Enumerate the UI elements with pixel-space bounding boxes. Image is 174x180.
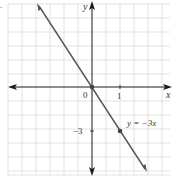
y-axis-label: y xyxy=(82,1,88,12)
x-tick-label: 1 xyxy=(117,91,122,101)
x-axis-label: x xyxy=(165,89,171,100)
point-1-neg3 xyxy=(118,129,123,134)
point-origin xyxy=(90,85,95,90)
coordinate-plane: a. xyxy=(0,0,174,180)
y-tick-label: −3 xyxy=(73,126,83,136)
equation-label: y = −3x xyxy=(126,118,156,128)
figure-label: a. xyxy=(0,0,2,10)
origin-label: 0 xyxy=(83,90,88,100)
grid xyxy=(8,4,170,175)
